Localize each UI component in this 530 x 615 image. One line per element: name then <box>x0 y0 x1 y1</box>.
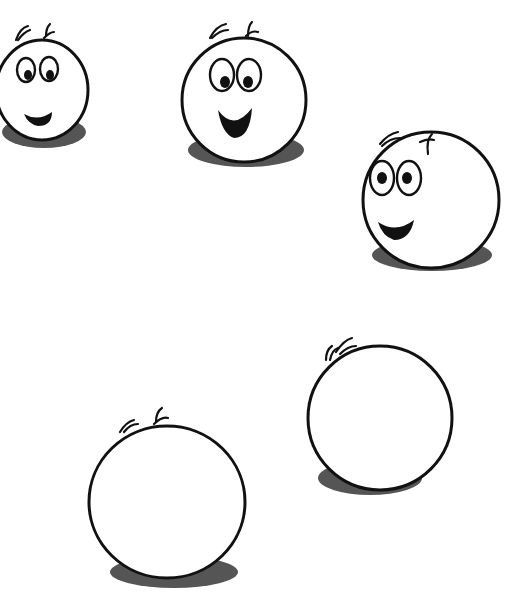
face-3-right-pupil <box>402 172 412 184</box>
face-1-right-pupil <box>46 70 54 80</box>
cartoon-faces-canvas <box>0 0 530 615</box>
face-3 <box>363 132 499 271</box>
face-1-left-pupil <box>24 70 32 80</box>
face-2-left-pupil <box>220 76 230 88</box>
face-1 <box>0 24 88 148</box>
face-1-hair-icon <box>16 24 54 40</box>
face-4-head <box>308 346 452 490</box>
face-2-right-pupil <box>243 76 253 88</box>
face-4 <box>308 338 452 495</box>
face-5-head <box>89 426 245 578</box>
face-2 <box>182 22 306 167</box>
face-2-hair-icon <box>210 22 258 38</box>
face-5 <box>89 408 245 588</box>
face-3-left-pupil <box>377 172 387 184</box>
face-3-head <box>363 132 499 268</box>
face-2-head <box>182 38 306 162</box>
